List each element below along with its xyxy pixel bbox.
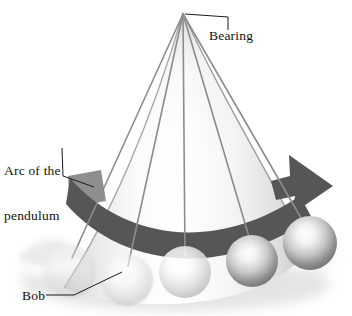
bob-5 [283,216,337,270]
label-bearing: Bearing [209,28,253,43]
bob-3 [159,246,211,298]
label-arc-of-the-pendulum: Arc of the pendulum [4,133,61,253]
bob-4 [226,235,278,287]
bob-1 [44,246,96,298]
label-arc-line-1: Arc of the [4,163,61,178]
label-arc-line-2: pendulum [4,208,61,223]
pendulum-diagram: Bearing Arc of the pendulum Bob [0,0,352,316]
bob-2 [101,254,153,306]
label-bob: Bob [22,288,45,303]
